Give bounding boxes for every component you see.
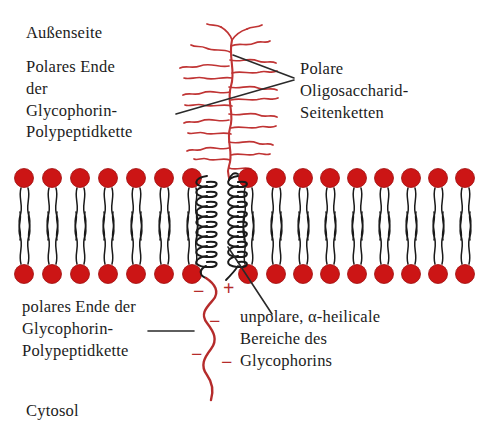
label-aussenseite: Außenseite: [26, 22, 102, 44]
lipid-head: [71, 169, 90, 188]
leader-oligosaccharide-lower: [176, 80, 294, 114]
charge-sign-negative: −: [221, 351, 232, 373]
label-polar-end-bottom: polares Ende der Glycophorin- Polypeptid…: [22, 296, 136, 361]
oligosaccharide-chain: [180, 24, 278, 180]
lipid-head: [43, 265, 62, 284]
lipid-head: [294, 265, 313, 284]
lipid-head: [375, 169, 394, 188]
glycophorin-membrane-diagram: − + − − − Außenseite Polares Ende der Gl…: [0, 0, 484, 438]
lipid-head: [239, 169, 258, 188]
lipid-head: [15, 265, 34, 284]
label-oligosaccharide-side-chains: Polare Oligosaccharid- Seitenketten: [300, 58, 408, 123]
lipid-head: [348, 169, 367, 188]
alpha-helix-left: [196, 176, 216, 278]
charge-sign-negative: −: [191, 343, 202, 365]
lipid-head: [375, 265, 394, 284]
lipid-head: [456, 169, 475, 188]
label-nonpolar-helical-regions: unpolare, α-heilicale Bereiche des Glyco…: [240, 306, 380, 371]
lipid-head: [294, 169, 313, 188]
charge-sign-positive: +: [223, 277, 234, 299]
lipid-head: [321, 169, 340, 188]
charge-sign-negative: −: [193, 280, 204, 302]
lipid-head: [71, 265, 90, 284]
lipid-head: [99, 169, 118, 188]
charge-signs: − + − − −: [191, 277, 234, 373]
lipid-head: [456, 265, 475, 284]
lipid-head: [429, 169, 448, 188]
lipid-head: [348, 265, 367, 284]
cytosolic-polypeptide-tail: [203, 278, 216, 400]
lipid-head: [402, 169, 421, 188]
lipid-head: [321, 265, 340, 284]
label-cytosol: Cytosol: [26, 400, 79, 422]
lipid-head: [155, 169, 174, 188]
lipid-head: [402, 265, 421, 284]
lipid-head: [267, 265, 286, 284]
leader-oligosaccharide-upper: [233, 55, 294, 78]
lipid-head: [155, 265, 174, 284]
lipid-head: [127, 265, 146, 284]
lipid-head: [267, 169, 286, 188]
label-polar-end-top: Polares Ende der Glycophorin- Polypeptid…: [26, 56, 133, 143]
leader-nonpolar-regions: [228, 247, 272, 314]
lipid-head: [15, 169, 34, 188]
lipid-head: [99, 265, 118, 284]
lipid-head: [127, 169, 146, 188]
charge-sign-negative: −: [209, 310, 220, 332]
lipid-head: [429, 265, 448, 284]
lipid-head: [43, 169, 62, 188]
